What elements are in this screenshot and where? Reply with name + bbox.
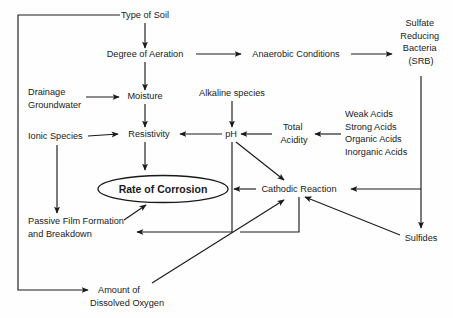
node-alkaline-species: Alkaline species — [199, 88, 265, 98]
node-drainage-groundwater: Drainage Groundwater — [28, 87, 81, 110]
passive-film-line-2: and Breakdown — [28, 229, 92, 239]
dissolved-oxygen-line-2: Dissolved Oxygen — [90, 298, 164, 308]
label-layer: Type of Soil Degree of Aeration Anaerobi… — [28, 10, 442, 308]
node-anaerobic-conditions: Anaerobic Conditions — [252, 49, 340, 59]
edge-type-of-soil-to-dissolved-oxygen — [18, 15, 120, 290]
node-ionic-species: Ionic Species — [28, 131, 83, 141]
node-acids-list: Weak Acids Strong Acids Organic Acids In… — [345, 109, 408, 157]
node-total-acidity: Total Acidity — [280, 122, 307, 145]
acid-line-weak: Weak Acids — [345, 109, 393, 119]
edge-passive-film-to-rate-of-corrosion — [124, 205, 146, 220]
srb-line-4: (SRB) — [408, 56, 433, 66]
node-sulfate-reducing-bacteria: Sulfate Reducing Bacteria (SRB) — [400, 18, 441, 66]
drainage-line-1: Drainage — [28, 87, 65, 97]
node-degree-of-aeration: Degree of Aeration — [107, 49, 184, 59]
node-rate-of-corrosion: Rate of Corrosion — [119, 183, 208, 195]
srb-line-3: Bacteria — [403, 43, 438, 53]
drainage-line-2: Groundwater — [28, 100, 81, 110]
acid-line-strong: Strong Acids — [345, 122, 397, 132]
srb-line-2: Reducing — [400, 31, 439, 41]
edge-ionic-species-to-resistivity — [88, 134, 118, 136]
node-ph: pH — [225, 129, 237, 139]
node-sulfides: Sulfides — [405, 233, 438, 243]
total-acidity-line-2: Acidity — [280, 135, 307, 145]
acid-line-organic: Organic Acids — [345, 134, 402, 144]
passive-film-line-1: Passive Film Formation — [28, 216, 124, 226]
node-resistivity: Resistivity — [128, 129, 170, 139]
edge-cathodic-reaction-to-passive-film — [240, 197, 299, 232]
node-passive-film: Passive Film Formation and Breakdown — [28, 216, 127, 239]
node-dissolved-oxygen: Amount of Dissolved Oxygen — [90, 285, 164, 308]
edge-sulfides-to-cathodic-reaction — [305, 197, 400, 235]
edge-ph-to-cathodic-reaction — [236, 142, 284, 180]
total-acidity-line-1: Total — [283, 122, 302, 132]
dissolved-oxygen-line-1: Amount of — [98, 285, 140, 295]
node-moisture: Moisture — [127, 91, 162, 101]
corrosion-factors-flowchart: Type of Soil Degree of Aeration Anaerobi… — [0, 0, 453, 318]
node-type-of-soil: Type of Soil — [121, 10, 169, 20]
edge-dissolved-oxygen-to-cathodic-reaction — [152, 200, 284, 283]
srb-line-1: Sulfate — [405, 18, 434, 28]
node-cathodic-reaction: Cathodic Reaction — [261, 184, 336, 194]
acid-line-inorganic: Inorganic Acids — [345, 147, 408, 157]
